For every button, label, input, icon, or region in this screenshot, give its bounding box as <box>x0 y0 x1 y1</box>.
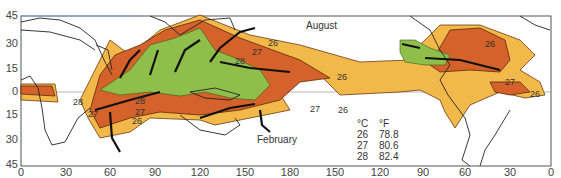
legend-f: 80.6 <box>379 140 398 151</box>
contour-label-26: 26 <box>337 73 347 82</box>
y-label-30s: 30 <box>0 134 18 145</box>
legend-header-c: °C <box>357 118 371 129</box>
y-label-0: 0 <box>0 86 18 97</box>
contour-label-27: 27 <box>505 78 515 87</box>
season-label-february: February <box>257 135 297 145</box>
temperature-legend: °C°F 2678.8 2780.6 2882.4 <box>357 118 398 162</box>
x-label: 60 <box>459 167 471 178</box>
season-label-august: August <box>306 21 337 31</box>
contour-label-28: 28 <box>235 57 245 66</box>
contour-label-27: 27 <box>310 105 320 114</box>
legend-f: 78.8 <box>379 129 398 140</box>
x-label: 30 <box>60 167 72 178</box>
contour-label-28: 28 <box>73 98 83 107</box>
contour-label-26: 26 <box>485 40 495 49</box>
contour-label-28: 28 <box>135 97 145 106</box>
contour-label-26: 26 <box>530 90 540 99</box>
contour-label-26: 26 <box>268 39 278 48</box>
x-label: 90 <box>417 167 429 178</box>
x-label: 30 <box>504 167 516 178</box>
x-label: 120 <box>191 167 209 178</box>
x-label: 60 <box>104 167 116 178</box>
legend-header-f: °F <box>379 118 389 129</box>
legend-c: 27 <box>357 140 371 151</box>
map-canvas <box>0 0 561 178</box>
x-label: 0 <box>18 167 24 178</box>
legend-f: 82.4 <box>379 151 398 162</box>
y-label-45n: 45 <box>0 10 18 21</box>
y-label-15s: 15 <box>0 109 18 120</box>
x-label: 180 <box>281 167 299 178</box>
y-label-15n: 15 <box>0 63 18 74</box>
x-label: 150 <box>236 167 254 178</box>
contour-label-26: 26 <box>132 117 142 126</box>
contour-label-26: 26 <box>338 106 348 115</box>
legend-c: 26 <box>357 129 371 140</box>
contour-label-27: 27 <box>252 48 262 57</box>
legend-c: 28 <box>357 151 371 162</box>
x-label: 90 <box>149 167 161 178</box>
y-label-30n: 30 <box>0 38 18 49</box>
x-label: 120 <box>371 167 389 178</box>
y-label-45s: 45 <box>0 159 18 170</box>
contour-label-27: 27 <box>88 110 98 119</box>
x-label: 150 <box>326 167 344 178</box>
x-label: 0 <box>548 167 554 178</box>
